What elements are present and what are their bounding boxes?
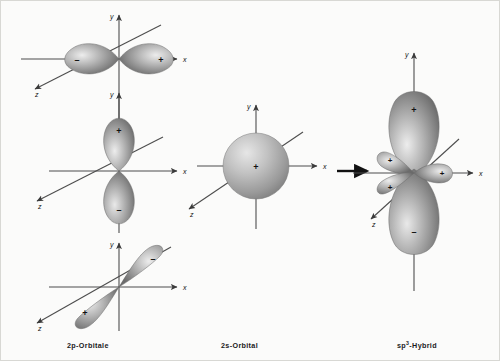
sign-px-positive: +	[158, 55, 163, 65]
sign-sp3-x-positive: +	[440, 169, 445, 178]
axis-label-x-2s: x	[322, 163, 327, 170]
sign-py-positive: +	[116, 126, 121, 136]
sign-pz-positive: +	[82, 308, 87, 318]
axis-label-x-sp3: x	[478, 170, 483, 177]
lobe-py-negative	[104, 171, 135, 224]
sign-pz-negative: –	[150, 254, 155, 264]
orbital-2pz: – + x y z	[37, 241, 187, 332]
orbital-2py: + – x y z	[37, 91, 187, 233]
caption-sp3-hybrid: sp3-Hybrid	[397, 340, 437, 350]
orbital-sp3-hybrid: + – + + + x y z	[353, 51, 483, 291]
sign-py-negative: –	[116, 205, 121, 215]
sign-2s-positive: +	[253, 162, 258, 172]
axis-label-z-2px: z	[34, 91, 39, 98]
axis-label-x-2px: x	[182, 56, 187, 63]
axis-label-y-2px: y	[109, 13, 114, 21]
axis-label-y-2py: y	[109, 91, 114, 99]
axis-label-y-sp3: y	[404, 51, 409, 59]
z-axis-line	[37, 137, 163, 201]
orbital-hybridization-figure: – + x y z + – x y z	[0, 0, 500, 361]
sign-sp3-large-negative: –	[411, 227, 416, 237]
caption-sp3-tail: -Hybrid	[409, 341, 437, 350]
lobe-px-negative	[65, 44, 119, 74]
axis-label-z-2py: z	[37, 203, 42, 210]
caption-2p-orbitale: 2p-Orbitale	[67, 341, 109, 350]
caption-sp3-base: sp	[397, 341, 406, 350]
axis-label-z-sp3: z	[371, 221, 376, 228]
axis-label-y-2pz: y	[109, 241, 114, 249]
axis-label-z-2s: z	[189, 211, 194, 218]
caption-2s-orbital: 2s-Orbital	[221, 341, 258, 350]
sign-px-negative: –	[74, 55, 79, 65]
lobe-pz-negative	[119, 245, 163, 287]
orbital-2s: + x y z	[189, 103, 327, 229]
orbital-2px: – + x y z	[21, 13, 187, 119]
sign-sp3-z-positive: +	[388, 183, 393, 192]
sign-sp3-z-negative: +	[388, 156, 393, 165]
axis-label-x-2py: x	[182, 168, 187, 175]
sign-sp3-large-positive: +	[411, 105, 416, 115]
lobe-px-positive	[119, 44, 173, 74]
axis-label-x-2pz: x	[182, 284, 187, 291]
axis-label-z-2pz: z	[37, 325, 42, 332]
axis-label-y-2s: y	[246, 103, 251, 111]
orbital-diagram-canvas: – + x y z + – x y z	[1, 1, 500, 361]
